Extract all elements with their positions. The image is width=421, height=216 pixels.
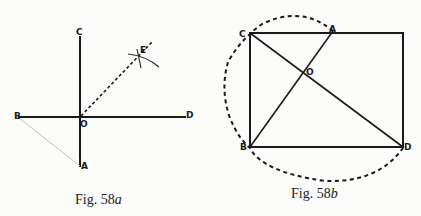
label-o: O bbox=[306, 67, 314, 77]
dashed-circle bbox=[224, 16, 403, 181]
label-d: D bbox=[404, 142, 411, 152]
figure-58a: C E B O D A Fig. 58a bbox=[14, 27, 193, 207]
label-a: A bbox=[81, 161, 88, 171]
label-b: B bbox=[240, 142, 247, 152]
caption-58a: Fig. 58a bbox=[75, 192, 122, 207]
diagonal-ba bbox=[250, 31, 333, 147]
label-a: A bbox=[329, 24, 336, 34]
label-d: D bbox=[186, 110, 193, 120]
figure-58b: C A O B D Fig. 58b bbox=[224, 16, 411, 201]
geometry-figures: C E B O D A Fig. 58a C A O B D Fig. 58b bbox=[0, 0, 421, 216]
diagonal-cd bbox=[250, 33, 403, 147]
label-c: C bbox=[76, 27, 83, 37]
label-c: C bbox=[239, 29, 246, 39]
arc-mark-1 bbox=[128, 54, 159, 67]
label-e: E bbox=[140, 45, 146, 55]
faint-line-ba bbox=[19, 118, 80, 166]
caption-58b: Fig. 58b bbox=[291, 186, 338, 201]
label-o: O bbox=[80, 119, 88, 129]
label-b: B bbox=[14, 111, 21, 121]
